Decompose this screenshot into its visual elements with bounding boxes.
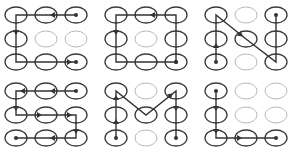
arrowhead-icon [13,106,19,111]
pattern-end-dot [14,136,18,140]
arrowhead-icon [150,12,155,18]
arrowhead-icon [173,106,179,111]
pattern-end-dot [274,136,278,140]
pattern-panel-2 [100,0,200,76]
pattern-start-dot [74,13,78,17]
pattern-4-drawing [0,76,100,153]
pattern-panel-6 [200,76,300,152]
pattern-line [116,15,176,62]
pattern-end-dot [274,13,278,17]
arrowhead-icon [113,95,119,100]
pattern-dot [65,31,87,47]
pattern-line [116,91,176,138]
arrowhead-icon [13,30,19,35]
pattern-dot [235,107,257,123]
pattern-2-drawing [100,0,200,76]
arrowhead-icon [213,106,219,111]
pattern-panel-1 [0,0,100,76]
pattern-dot [265,83,287,99]
arrowhead-icon [213,129,219,134]
arrowhead-icon [37,112,42,118]
pattern-start-dot [74,89,78,93]
pattern-line [16,15,76,62]
pattern-6-drawing [200,76,301,153]
pattern-dot [35,31,57,47]
pattern-dot [235,83,257,99]
arrowhead-icon [50,12,55,18]
arrowhead-icon [67,112,72,118]
pattern-dot [135,130,157,146]
arrowhead-icon [113,30,119,35]
arrowhead-icon [20,88,25,94]
arrowhead-icon [67,59,72,65]
pattern-dot [235,7,257,23]
arrowhead-icon [213,43,219,48]
pattern-dot [135,83,157,99]
pattern-end-dot [174,60,178,64]
pattern-3-drawing [200,0,301,76]
pattern-dot [235,54,257,70]
pattern-panel-3 [200,0,300,76]
pattern-end-dot [74,60,78,64]
pattern-end-dot [174,136,178,140]
pattern-start-dot [114,136,118,140]
pattern-start-dot [214,89,218,93]
pattern-line [216,91,276,138]
arrowhead-icon [113,119,119,124]
pattern-dot [265,107,287,123]
pattern-panel-5 [100,76,200,152]
pattern-dot [135,31,157,47]
pattern-5-drawing [100,76,200,153]
pattern-start-dot [214,60,218,64]
arrowhead-icon [73,129,79,134]
pattern-grid [0,0,301,153]
arrowhead-icon [237,135,242,141]
pattern-1-drawing [0,0,100,76]
pattern-panel-4 [0,76,100,152]
pattern-line [216,15,276,62]
arrowhead-icon [50,135,55,141]
arrowhead-icon [50,88,55,94]
